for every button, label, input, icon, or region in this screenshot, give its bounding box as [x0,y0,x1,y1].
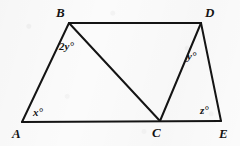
segments-group [22,23,221,122]
segment-CD [160,23,201,121]
angle-x-label: x° [33,107,43,118]
vertex-label-b: B [56,6,65,19]
geometry-figure: ABCDEx°2y°y°z° [0,0,240,146]
vertex-label-a: A [12,127,21,140]
angle-z-label: z° [200,105,209,116]
vertex-label-e: E [219,127,228,140]
angle-y-label: y° [187,51,196,62]
segment-AB [22,23,69,122]
angle-2y-label: 2y° [59,41,74,52]
segment-AE [22,121,221,122]
vertex-label-d: D [205,6,214,19]
segment-BC [69,23,160,121]
figure-canvas [0,0,240,146]
vertex-label-c: C [152,126,161,139]
